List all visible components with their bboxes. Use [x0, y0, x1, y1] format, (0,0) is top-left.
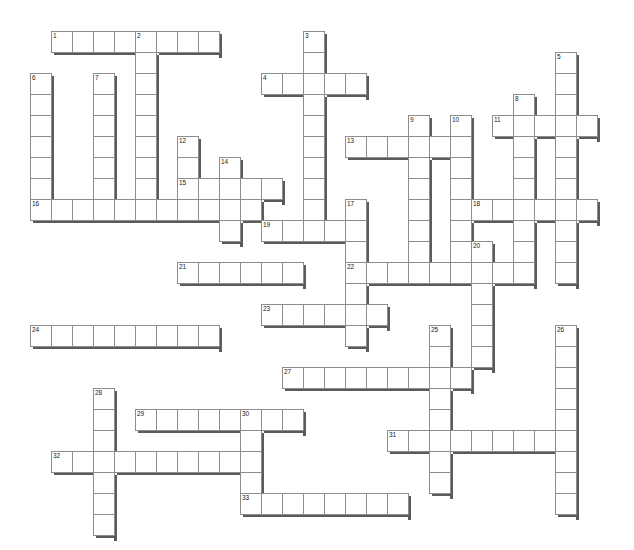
crossword-cell[interactable]	[408, 241, 430, 263]
crossword-cell[interactable]	[303, 367, 325, 389]
crossword-cell[interactable]	[303, 94, 325, 116]
crossword-cell[interactable]	[93, 199, 115, 221]
crossword-cell[interactable]	[555, 94, 577, 116]
crossword-cell[interactable]	[135, 31, 157, 53]
crossword-cell[interactable]	[30, 199, 52, 221]
crossword-cell[interactable]	[156, 31, 178, 53]
crossword-cell[interactable]	[429, 367, 451, 389]
crossword-cell[interactable]	[366, 367, 388, 389]
crossword-cell[interactable]	[72, 31, 94, 53]
crossword-cell[interactable]	[345, 304, 367, 326]
crossword-cell[interactable]	[450, 430, 472, 452]
crossword-cell[interactable]	[555, 199, 577, 221]
crossword-cell[interactable]	[345, 136, 367, 158]
crossword-cell[interactable]	[93, 514, 115, 536]
crossword-cell[interactable]	[93, 388, 115, 410]
crossword-cell[interactable]	[240, 262, 262, 284]
crossword-cell[interactable]	[555, 178, 577, 200]
crossword-cell[interactable]	[219, 199, 241, 221]
crossword-cell[interactable]	[198, 325, 220, 347]
crossword-cell[interactable]	[513, 136, 535, 158]
crossword-cell[interactable]	[240, 451, 262, 473]
crossword-cell[interactable]	[345, 283, 367, 305]
crossword-cell[interactable]	[513, 262, 535, 284]
crossword-cell[interactable]	[345, 199, 367, 221]
crossword-cell[interactable]	[30, 73, 52, 95]
crossword-cell[interactable]	[240, 199, 262, 221]
crossword-cell[interactable]	[471, 325, 493, 347]
crossword-cell[interactable]	[513, 430, 535, 452]
crossword-cell[interactable]	[429, 262, 451, 284]
crossword-cell[interactable]	[555, 430, 577, 452]
crossword-cell[interactable]	[177, 451, 199, 473]
crossword-cell[interactable]	[513, 94, 535, 116]
crossword-cell[interactable]	[282, 73, 304, 95]
crossword-cell[interactable]	[387, 262, 409, 284]
crossword-cell[interactable]	[51, 325, 73, 347]
crossword-cell[interactable]	[471, 304, 493, 326]
crossword-cell[interactable]	[156, 409, 178, 431]
crossword-cell[interactable]	[303, 136, 325, 158]
crossword-cell[interactable]	[492, 199, 514, 221]
crossword-cell[interactable]	[513, 157, 535, 179]
crossword-cell[interactable]	[408, 367, 430, 389]
crossword-cell[interactable]	[177, 325, 199, 347]
crossword-cell[interactable]	[324, 367, 346, 389]
crossword-cell[interactable]	[450, 262, 472, 284]
crossword-cell[interactable]	[240, 493, 262, 515]
crossword-cell[interactable]	[93, 493, 115, 515]
crossword-cell[interactable]	[135, 73, 157, 95]
crossword-cell[interactable]	[471, 283, 493, 305]
crossword-cell[interactable]	[72, 325, 94, 347]
crossword-cell[interactable]	[156, 451, 178, 473]
crossword-cell[interactable]	[450, 115, 472, 137]
crossword-cell[interactable]	[366, 493, 388, 515]
crossword-cell[interactable]	[429, 472, 451, 494]
crossword-cell[interactable]	[324, 304, 346, 326]
crossword-cell[interactable]	[408, 220, 430, 242]
crossword-cell[interactable]	[408, 430, 430, 452]
crossword-cell[interactable]	[324, 493, 346, 515]
crossword-cell[interactable]	[30, 136, 52, 158]
crossword-cell[interactable]	[282, 367, 304, 389]
crossword-cell[interactable]	[471, 241, 493, 263]
crossword-cell[interactable]	[555, 262, 577, 284]
crossword-cell[interactable]	[93, 178, 115, 200]
crossword-cell[interactable]	[282, 304, 304, 326]
crossword-cell[interactable]	[408, 115, 430, 137]
crossword-cell[interactable]	[345, 493, 367, 515]
crossword-cell[interactable]	[72, 451, 94, 473]
crossword-cell[interactable]	[324, 220, 346, 242]
crossword-cell[interactable]	[135, 451, 157, 473]
crossword-cell[interactable]	[51, 31, 73, 53]
crossword-cell[interactable]	[93, 451, 115, 473]
crossword-cell[interactable]	[555, 241, 577, 263]
crossword-cell[interactable]	[198, 178, 220, 200]
crossword-cell[interactable]	[324, 73, 346, 95]
crossword-cell[interactable]	[135, 52, 157, 74]
crossword-cell[interactable]	[177, 31, 199, 53]
crossword-cell[interactable]	[555, 493, 577, 515]
crossword-cell[interactable]	[219, 451, 241, 473]
crossword-cell[interactable]	[135, 157, 157, 179]
crossword-cell[interactable]	[576, 199, 598, 221]
crossword-cell[interactable]	[513, 199, 535, 221]
crossword-cell[interactable]	[555, 220, 577, 242]
crossword-cell[interactable]	[282, 493, 304, 515]
crossword-cell[interactable]	[408, 157, 430, 179]
crossword-cell[interactable]	[135, 136, 157, 158]
crossword-cell[interactable]	[534, 430, 556, 452]
crossword-cell[interactable]	[387, 136, 409, 158]
crossword-cell[interactable]	[345, 325, 367, 347]
crossword-cell[interactable]	[450, 220, 472, 242]
crossword-cell[interactable]	[135, 199, 157, 221]
crossword-cell[interactable]	[450, 367, 472, 389]
crossword-cell[interactable]	[576, 115, 598, 137]
crossword-cell[interactable]	[282, 220, 304, 242]
crossword-cell[interactable]	[51, 451, 73, 473]
crossword-cell[interactable]	[429, 430, 451, 452]
crossword-cell[interactable]	[261, 178, 283, 200]
crossword-cell[interactable]	[345, 73, 367, 95]
crossword-cell[interactable]	[156, 325, 178, 347]
crossword-cell[interactable]	[408, 136, 430, 158]
